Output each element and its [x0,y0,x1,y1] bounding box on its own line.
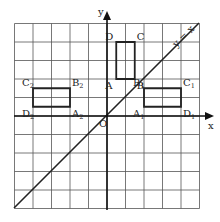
line-label: y = x [170,23,197,50]
point-label: D2 [22,108,34,121]
y-axis-label: y [97,6,104,17]
point-label: D1 [183,108,195,121]
x-axis-arrow-icon [205,112,214,120]
x-axis-label: x [208,120,214,131]
point-label: A2 [71,108,83,121]
origin-label: O [99,118,107,129]
coordinate-diagram: x y O y = x ABCDA1B1C1D1A2B2C2D2 [0,0,220,222]
point-label: A [104,80,113,91]
y-axis-arrow-icon [103,11,111,20]
point-label: A1 [132,108,144,121]
point-label: C [137,31,145,42]
point-label: D [105,31,113,42]
